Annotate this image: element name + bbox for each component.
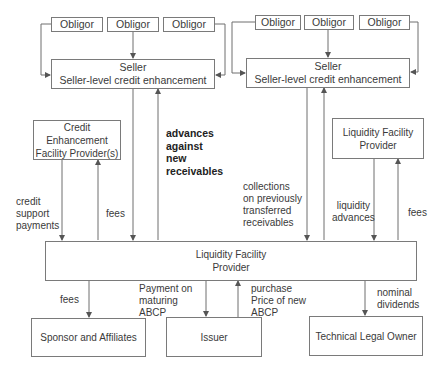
label-liquidity-advances: liquidity advances (332, 200, 375, 224)
label-fees-sponsor: fees (60, 294, 79, 306)
seller-box-right: Seller Seller-level credit enhancement (246, 58, 410, 88)
obligor-label: Obligor (116, 18, 150, 31)
label-fees-ce: fees (106, 208, 125, 220)
seller-box-left: Seller Seller-level credit enhancement (51, 59, 215, 89)
label-credit-support-payments: credit support payments (16, 196, 59, 232)
box-label: Technical Legal Owner (315, 330, 416, 343)
label-payment-on-maturing-abcp: Payment on maturing ABCP (139, 283, 192, 319)
box-label: Issuer (200, 331, 227, 344)
liquidity-provider-box-main: Liquidity Facility Provider (45, 241, 417, 281)
technical-legal-owner-box: Technical Legal Owner (309, 316, 423, 356)
label-collections: collections on previously transferred re… (243, 181, 302, 229)
seller-subtitle: Seller-level credit enhancement (59, 74, 206, 87)
obligor-box-left-2: Obligor (107, 17, 159, 32)
obligor-box-right-3: Obligor (359, 15, 410, 30)
obligor-box-right-2: Obligor (304, 15, 354, 30)
obligor-box-right-1: Obligor (255, 15, 301, 30)
label-advances-against-new-receivables: advances against new receivables (166, 127, 223, 177)
obligor-label: Obligor (60, 18, 94, 31)
sponsor-affiliates-box: Sponsor and Affiliates (31, 318, 146, 357)
obligor-label: Obligor (312, 16, 346, 29)
box-label-line1: Liquidity Facility (343, 126, 414, 139)
issuer-box: Issuer (166, 317, 262, 357)
label-nominal-dividends: nominal dividends (377, 287, 419, 311)
label-purchase-price-new-abcp: purchase Price of new ABCP (251, 283, 306, 319)
box-label-line1: Liquidity Facility (196, 248, 267, 261)
credit-enhancement-provider-box: Credit Enhancement Facility Provider(s) (33, 120, 121, 160)
box-label-line2: Facility Provider(s) (36, 147, 119, 160)
box-label-line2: Provider (359, 139, 396, 152)
box-label-line1: Credit Enhancement (34, 121, 120, 147)
label-fees-lf: fees (408, 207, 427, 219)
seller-title: Seller (120, 61, 147, 74)
box-label: Sponsor and Affiliates (40, 331, 137, 344)
seller-title: Seller (315, 60, 342, 73)
seller-subtitle: Seller-level credit enhancement (254, 73, 401, 86)
obligor-box-left-1: Obligor (51, 17, 103, 32)
obligor-box-left-3: Obligor (163, 17, 215, 32)
obligor-label: Obligor (172, 18, 206, 31)
obligor-label: Obligor (368, 16, 402, 29)
box-label-line2: Provider (212, 261, 249, 274)
obligor-label: Obligor (261, 16, 295, 29)
liquidity-provider-box-small: Liquidity Facility Provider (332, 118, 424, 159)
